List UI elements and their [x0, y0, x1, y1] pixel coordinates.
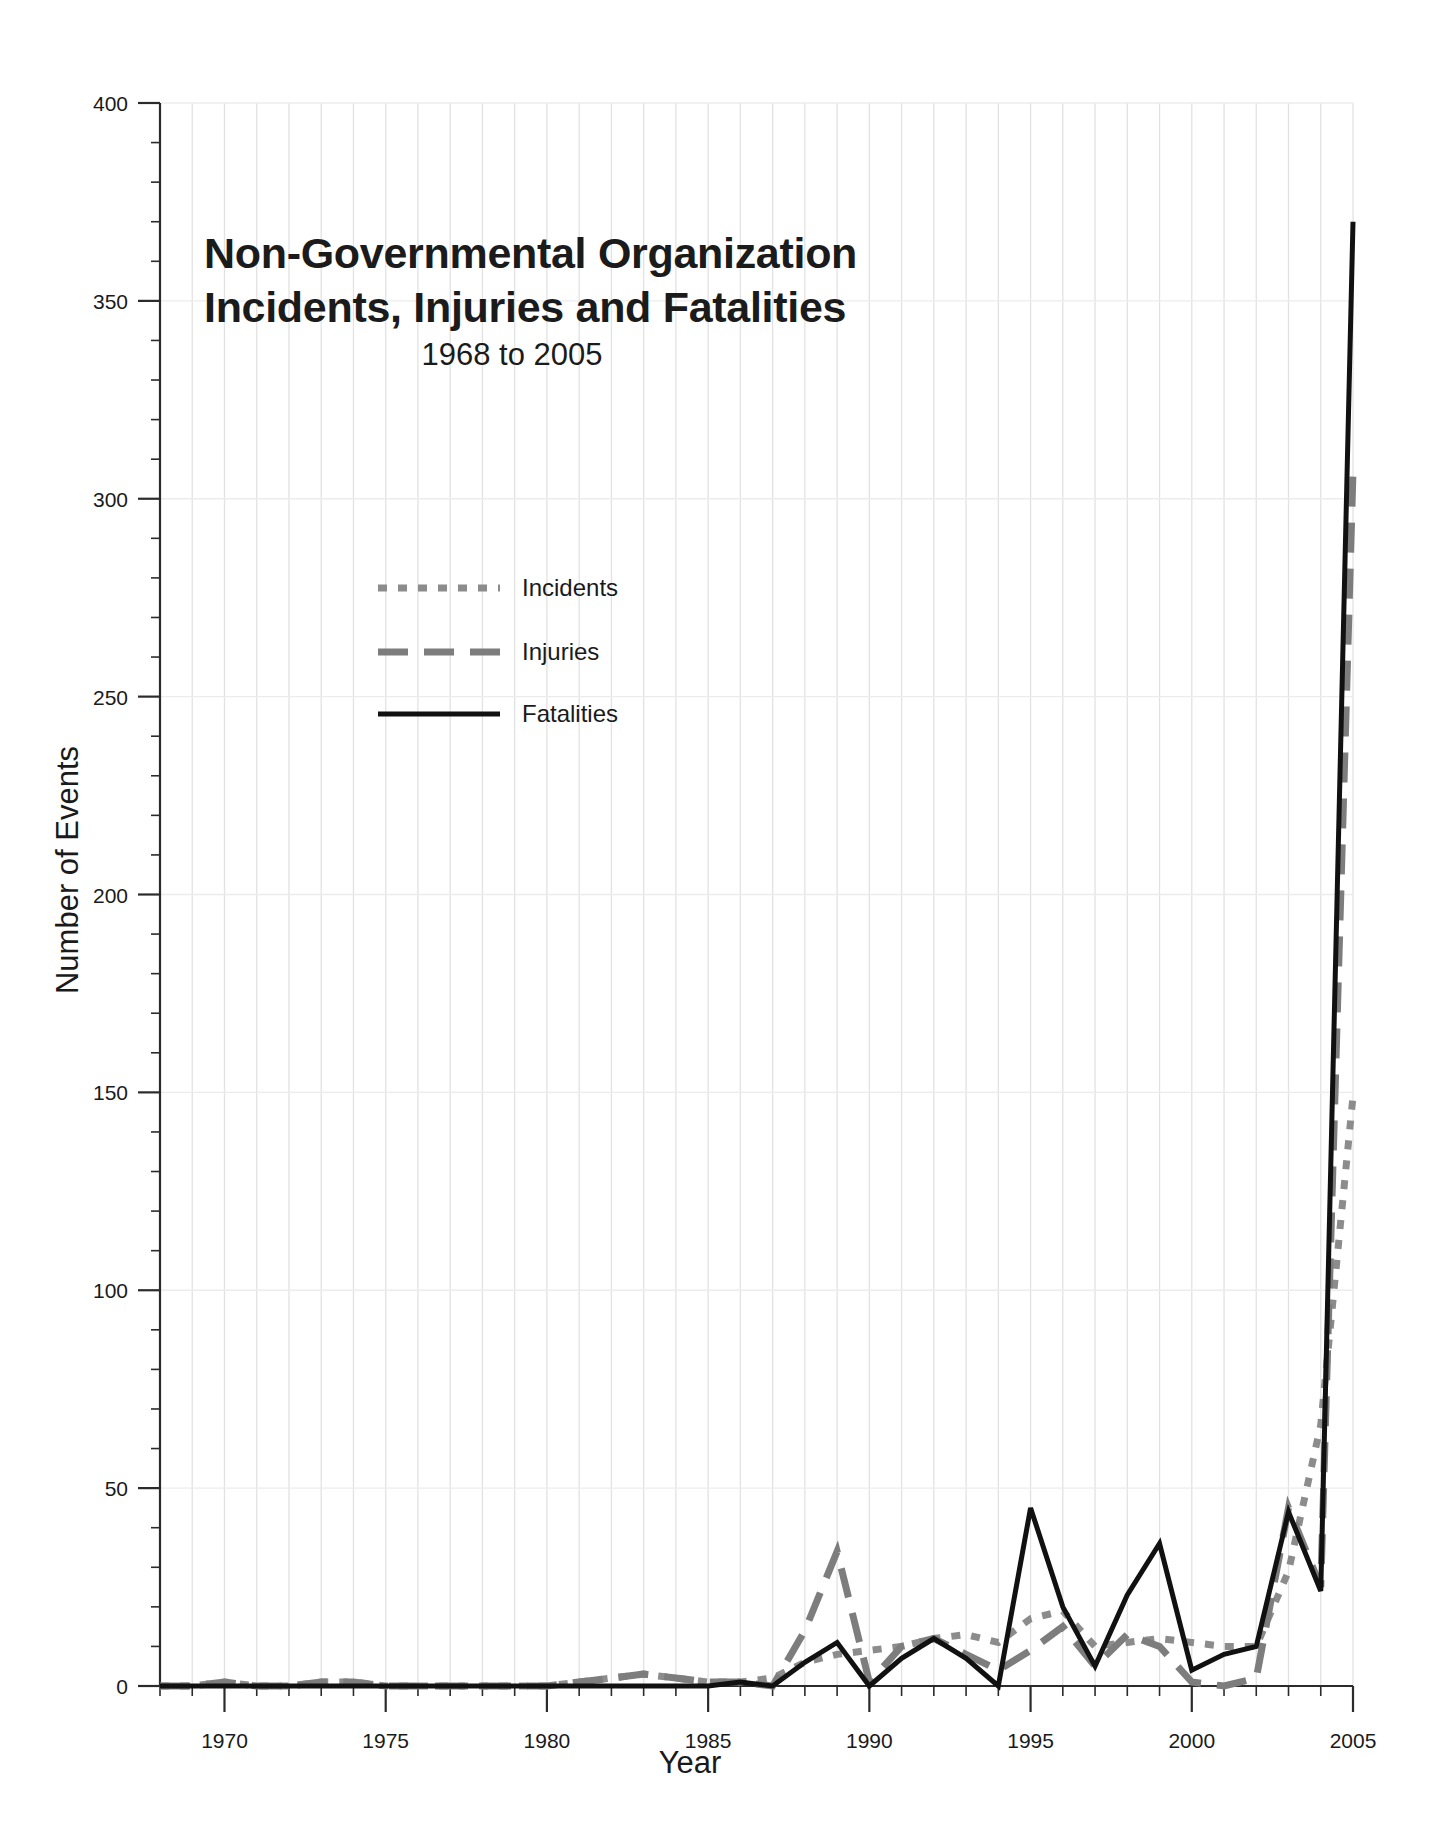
- x-tick-label: 2000: [1168, 1729, 1215, 1752]
- y-tick-label: 400: [93, 92, 128, 115]
- chart-title-line-1: Non-Governmental Organization: [204, 229, 857, 277]
- x-tick-label: 1975: [362, 1729, 409, 1752]
- y-tick-label: 300: [93, 488, 128, 511]
- legend-label-fatalities: Fatalities: [522, 700, 618, 727]
- y-tick-label: 200: [93, 884, 128, 907]
- y-tick-label: 100: [93, 1279, 128, 1302]
- chart-figure: 050100150200250300350400 197019751980198…: [0, 0, 1442, 1847]
- y-tick-label: 50: [105, 1477, 128, 1500]
- x-tick-label: 1990: [846, 1729, 893, 1752]
- y-tick-label: 250: [93, 686, 128, 709]
- x-axis-title: Year: [659, 1745, 722, 1780]
- x-tick-label: 1970: [201, 1729, 248, 1752]
- ngo-incidents-line-chart: 050100150200250300350400 197019751980198…: [0, 0, 1442, 1847]
- chart-subtitle: 1968 to 2005: [421, 337, 602, 372]
- x-tick-label: 1995: [1007, 1729, 1054, 1752]
- x-tick-label: 2005: [1330, 1729, 1377, 1752]
- y-axis-title: Number of Events: [50, 746, 85, 994]
- y-tick-label: 150: [93, 1081, 128, 1104]
- legend-label-injuries: Injuries: [522, 638, 599, 665]
- y-tick-label: 350: [93, 290, 128, 313]
- chart-title-line-2: Incidents, Injuries and Fatalities: [204, 283, 846, 331]
- chart-background: [0, 0, 1442, 1847]
- legend-label-incidents: Incidents: [522, 574, 618, 601]
- y-tick-label: 0: [116, 1675, 128, 1698]
- x-tick-label: 1980: [524, 1729, 571, 1752]
